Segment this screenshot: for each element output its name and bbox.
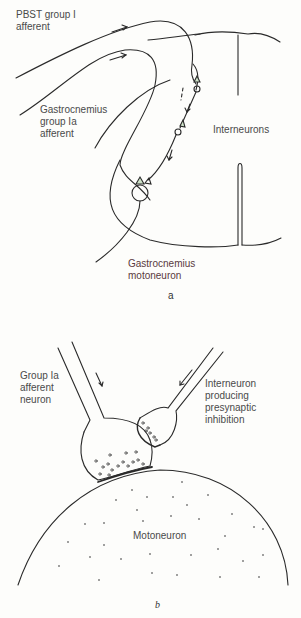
label-motoneuron: Motoneuron: [133, 530, 186, 542]
label-interneuron-presynaptic: Interneuron producing presynaptic inhibi…: [205, 378, 256, 426]
panel-a-drawing: [16, 21, 281, 262]
label-group-ia-afferent: Group Ia afferent neuron: [20, 370, 59, 406]
label-interneurons: Interneurons: [213, 124, 269, 136]
panel-label-a: a: [168, 290, 174, 301]
panel-label-b: b: [155, 599, 160, 610]
label-pbst-afferent: PBST group I afferent: [16, 9, 76, 33]
label-gastrocnemius-motoneuron: Gastrocnemius motoneuron: [128, 258, 195, 282]
label-gastrocnemius-afferent: Gastrocnemius group Ia afferent: [40, 104, 107, 140]
neuro-diagram: [0, 0, 301, 618]
